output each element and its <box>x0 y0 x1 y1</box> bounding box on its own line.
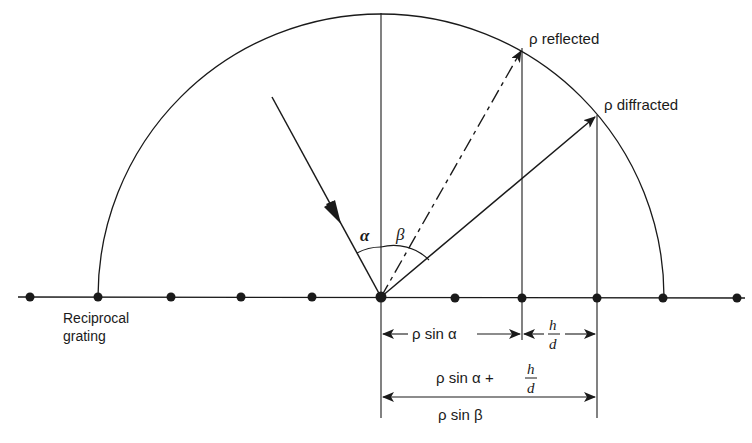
beta-label: β <box>395 225 405 244</box>
grating-label-line1: Reciprocal <box>63 310 129 326</box>
sum-expression-label: ρ sin α + <box>436 369 494 386</box>
diffracted-label: ρ diffracted <box>604 96 678 113</box>
sum-h-numerator: h <box>527 361 535 377</box>
grating-label-line2: grating <box>63 328 106 344</box>
rho-sin-alpha-label: ρ sin α <box>412 325 457 342</box>
alpha-arc <box>357 247 381 253</box>
rho-sin-beta-label: ρ sin β <box>438 406 483 423</box>
h-numerator: h <box>549 317 557 333</box>
sum-d-denominator: d <box>527 380 535 396</box>
incident-ray <box>272 97 381 297</box>
reflected-ray <box>381 51 521 297</box>
d-denominator: d <box>549 336 557 352</box>
alpha-label: α <box>360 226 370 245</box>
diffracted-ray <box>381 117 595 297</box>
beta-arc <box>381 245 429 260</box>
reflected-label: ρ reflected <box>529 30 599 47</box>
diagram-canvas: ρ reflected ρ diffracted Reciprocal grat… <box>0 0 752 443</box>
